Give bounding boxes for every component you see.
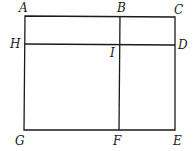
label-G: G bbox=[15, 134, 25, 148]
segment-BF bbox=[119, 16, 120, 130]
label-A: A bbox=[18, 1, 28, 15]
label-B: B bbox=[116, 1, 126, 15]
label-D: D bbox=[177, 38, 188, 52]
geometry-diagram: A B C H I D G F E bbox=[0, 0, 194, 151]
label-C: C bbox=[174, 3, 183, 17]
label-H: H bbox=[9, 37, 21, 51]
label-F: F bbox=[112, 134, 122, 148]
outer-rectangle-ACEG bbox=[24, 16, 175, 130]
label-E: E bbox=[172, 134, 182, 148]
label-I: I bbox=[109, 46, 115, 60]
segment-HD bbox=[25, 44, 175, 45]
